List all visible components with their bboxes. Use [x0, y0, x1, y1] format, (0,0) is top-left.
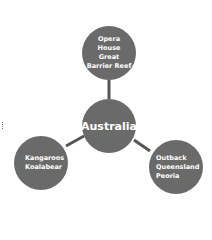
node-text: Koalabear	[25, 163, 62, 172]
connector-bottom-right	[134, 140, 150, 151]
node-bottom-left[interactable]: Kangaroos Koalabear	[14, 136, 68, 190]
node-text: Outback	[156, 154, 186, 163]
node-bottom-right[interactable]: Outback Queensland Peoria	[149, 140, 203, 194]
node-text: Opera	[98, 35, 120, 44]
node-text: House	[98, 44, 121, 53]
node-text: Kangaroos	[25, 154, 64, 163]
margin-mark	[2, 122, 5, 129]
center-label: Australia	[81, 120, 137, 133]
node-center[interactable]: Australia	[82, 99, 136, 153]
node-text: Barrier Reef	[87, 62, 132, 71]
connector-bottom-left	[66, 136, 84, 146]
node-text: Queensland	[156, 163, 199, 172]
node-text: Peoria	[156, 172, 179, 181]
node-top[interactable]: Opera House Great Barrier Reef	[82, 26, 136, 80]
node-text: Great	[99, 53, 119, 62]
